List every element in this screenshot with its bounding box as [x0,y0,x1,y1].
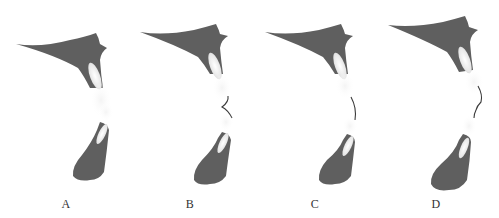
jaw-diagram-c [249,0,379,218]
panel-label: A [56,197,76,212]
suture-line [351,97,356,120]
panel-b: B [124,0,254,218]
jaw-diagram-b [124,0,254,218]
panel-label: B [180,197,200,212]
soft-tissue-lip [343,117,357,135]
panel-label: D [426,197,446,212]
soft-tissue-lip [462,116,476,136]
panel-a: A [0,0,130,218]
soft-tissue-lip [336,74,354,98]
jaw-diagram-a [0,0,130,218]
jaw-diagram-d [371,0,499,218]
panel-label: C [305,197,325,212]
panel-d: D [371,0,499,218]
soft-tissue-lip [99,103,113,121]
panel-c: C [249,0,379,218]
soft-tissue-lip [219,113,233,131]
